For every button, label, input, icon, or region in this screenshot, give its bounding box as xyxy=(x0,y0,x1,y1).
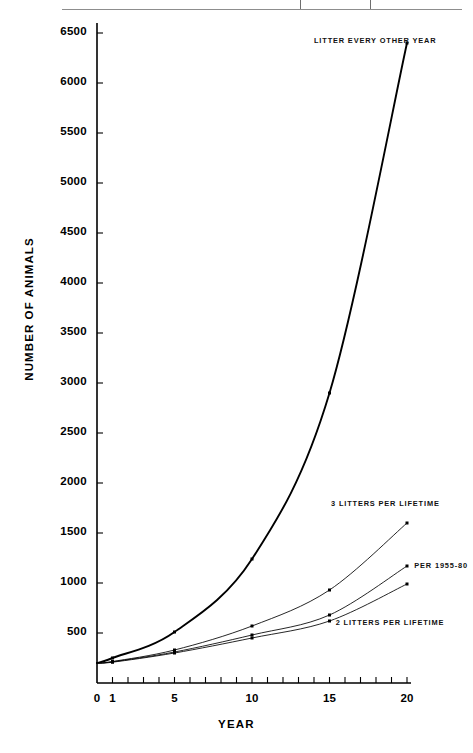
x-tick-label-20: 20 xyxy=(392,692,422,704)
y-tick-label-1500: 1500 xyxy=(39,525,87,537)
y-tick-label-500: 500 xyxy=(39,625,87,637)
series-label-1: 3 LITTERS PER LIFETIME xyxy=(331,499,440,508)
series-line-1 xyxy=(97,523,407,663)
series-3-point-4 xyxy=(328,620,331,623)
series-3-point-2 xyxy=(173,652,176,655)
series-1-point-5 xyxy=(406,522,409,525)
running-head: EMIGRATION MORTALITY AND POPULATION xyxy=(0,0,473,11)
running-head-text: EMIGRATION MORTALITY AND POPULATION xyxy=(60,0,274,1)
series-0-point-1 xyxy=(111,657,114,660)
y-tick-label-6000: 6000 xyxy=(39,75,87,87)
running-head-tick-2 xyxy=(370,0,371,9)
running-head-right: MORTALITY AND POPULATION xyxy=(137,0,273,1)
figure-page: EMIGRATION MORTALITY AND POPULATION NUMB… xyxy=(0,0,473,753)
y-tick-label-5500: 5500 xyxy=(39,125,87,137)
series-layer xyxy=(97,42,409,664)
series-3-point-5 xyxy=(406,583,409,586)
series-1-point-3 xyxy=(251,625,254,628)
y-tick-label-4000: 4000 xyxy=(39,275,87,287)
series-3-point-3 xyxy=(251,637,254,640)
series-2-point-5 xyxy=(406,565,409,568)
series-1-point-4 xyxy=(328,589,331,592)
series-2-point-4 xyxy=(328,614,331,617)
y-tick-label-3000: 3000 xyxy=(39,375,87,387)
y-tick-label-6500: 6500 xyxy=(39,25,87,37)
running-head-left: EMIGRATION xyxy=(60,0,118,1)
y-tick-label-3500: 3500 xyxy=(39,325,87,337)
y-tick-label-4500: 4500 xyxy=(39,225,87,237)
y-tick-label-2500: 2500 xyxy=(39,425,87,437)
series-0-point-4 xyxy=(328,392,331,395)
series-2-point-3 xyxy=(251,634,254,637)
y-tick-label-5000: 5000 xyxy=(39,175,87,187)
series-label-2: PER 1955-80 xyxy=(414,561,468,570)
series-label-0: LITTER EVERY OTHER YEAR xyxy=(314,36,437,45)
series-label-3: 2 LITTERS PER LIFETIME xyxy=(336,618,445,627)
chart-figure: NUMBER OF ANIMALS YEAR 50010001500200025… xyxy=(0,11,473,753)
y-tick-label-1000: 1000 xyxy=(39,575,87,587)
x-tick-label-10: 10 xyxy=(237,692,267,704)
series-line-0 xyxy=(97,43,407,663)
series-0-point-3 xyxy=(251,558,254,561)
running-head-rule xyxy=(62,9,462,10)
x-tick-label-5: 5 xyxy=(160,692,190,704)
x-tick-label-1: 1 xyxy=(98,692,128,704)
series-0-point-2 xyxy=(173,631,176,634)
axes-layer xyxy=(97,23,411,683)
running-head-tick-1 xyxy=(300,0,301,9)
x-tick-label-15: 15 xyxy=(315,692,345,704)
series-3-point-1 xyxy=(111,661,114,664)
y-tick-label-2000: 2000 xyxy=(39,475,87,487)
